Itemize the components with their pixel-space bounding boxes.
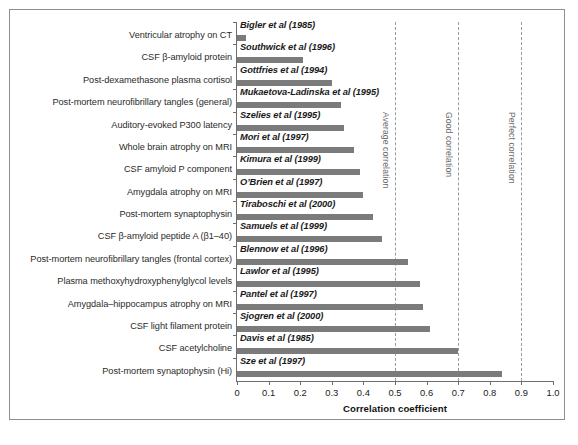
x-axis-tick-label: 0.8 bbox=[483, 387, 496, 398]
bar-citation-label: Tiraboschi et al (2000) bbox=[240, 199, 335, 209]
bar-citation-label: Davis et al (1985) bbox=[240, 333, 314, 343]
x-axis-tick-label: 0.5 bbox=[388, 387, 401, 398]
bar-citation-label: Southwick et al (1996) bbox=[240, 42, 335, 52]
bar bbox=[237, 125, 344, 131]
category-label: Amygdala–hippocampus atrophy on MRI bbox=[68, 299, 232, 309]
category-label: CSF light filament protein bbox=[130, 321, 232, 331]
bar-citation-label: Bigler et al (1985) bbox=[240, 20, 315, 30]
x-axis-tick bbox=[553, 381, 554, 385]
category-label: Plasma methoxyhydroxyphenylglycol levels bbox=[57, 276, 232, 286]
y-axis-tick bbox=[233, 67, 237, 68]
x-axis-tick-label: 0.9 bbox=[515, 387, 528, 398]
category-label: CSF amyloid P component bbox=[124, 164, 232, 174]
x-axis-tick bbox=[427, 381, 428, 385]
bar bbox=[237, 371, 502, 377]
category-label: Ventricular atrophy on CT bbox=[129, 30, 232, 40]
x-axis-title: Correlation coefficient bbox=[237, 403, 553, 414]
y-axis-tick bbox=[233, 22, 237, 23]
x-axis-tick bbox=[521, 381, 522, 385]
category-label: Amygdala atrophy on MRI bbox=[127, 187, 232, 197]
x-axis-tick bbox=[269, 381, 270, 385]
y-axis-tick bbox=[233, 291, 237, 292]
category-label: CSF β-amyloid peptide A (β1–40) bbox=[98, 231, 232, 241]
x-axis-tick-label: 0.3 bbox=[325, 387, 338, 398]
x-axis-tick bbox=[490, 381, 491, 385]
bar bbox=[237, 169, 360, 175]
category-label: Post-mortem neurofibrillary tangles (fro… bbox=[30, 254, 232, 264]
bar bbox=[237, 57, 303, 63]
bar bbox=[237, 102, 341, 108]
bar-citation-label: Mukaetova-Ladinska et al (1995) bbox=[240, 87, 379, 97]
category-label: Post-mortem synaptophysin bbox=[119, 209, 232, 219]
x-axis-tick bbox=[332, 381, 333, 385]
bar-citation-label: Mori et al (1997) bbox=[240, 132, 309, 142]
bar bbox=[237, 236, 382, 242]
x-axis-tick bbox=[363, 381, 364, 385]
y-axis-tick bbox=[233, 89, 237, 90]
bar-citation-label: Sjogren et al (2000) bbox=[240, 311, 323, 321]
plot-area: Bigler et al (1985)Southwick et al (1996… bbox=[237, 22, 553, 380]
x-axis-tick-label: 0.4 bbox=[357, 387, 370, 398]
x-axis-tick-label: 0.2 bbox=[294, 387, 307, 398]
bar-citation-label: Kimura et al (1999) bbox=[240, 154, 321, 164]
bar bbox=[237, 214, 373, 220]
x-axis-tick-label: 0.1 bbox=[262, 387, 275, 398]
y-axis-tick bbox=[233, 156, 237, 157]
bar-citation-label: Samuels et al (1999) bbox=[240, 221, 327, 231]
y-axis-tick bbox=[233, 313, 237, 314]
bar-citation-label: Gottfries et al (1994) bbox=[240, 65, 327, 75]
bar-citation-label: Lawlor et al (1995) bbox=[240, 266, 319, 276]
bar-citation-label: Blennow et al (1996) bbox=[240, 244, 327, 254]
bar bbox=[237, 304, 423, 310]
x-axis-tick bbox=[458, 381, 459, 385]
category-label: Post-mortem neurofibrillary tangles (gen… bbox=[52, 97, 232, 107]
y-axis-tick bbox=[233, 223, 237, 224]
bar bbox=[237, 35, 246, 41]
x-axis-tick bbox=[300, 381, 301, 385]
chart-figure: Average correlationGood correlationPerfe… bbox=[0, 0, 578, 445]
x-axis-tick-label: 1.0 bbox=[546, 387, 559, 398]
x-axis-tick-label: 0.6 bbox=[420, 387, 433, 398]
bar-citation-label: Szelies et al (1995) bbox=[240, 110, 320, 120]
bar-citation-label: Sze et al (1997) bbox=[240, 356, 305, 366]
bar bbox=[237, 259, 408, 265]
category-label: CSF β-amyloid protein bbox=[141, 52, 232, 62]
y-axis-tick bbox=[233, 335, 237, 336]
bar bbox=[237, 326, 430, 332]
x-axis-tick-label: 0 bbox=[234, 387, 239, 398]
category-label: Auditory-evoked P300 latency bbox=[111, 120, 232, 130]
y-axis-tick bbox=[233, 246, 237, 247]
category-label: Post-dexamethasone plasma cortisol bbox=[83, 75, 232, 85]
y-axis-tick bbox=[233, 201, 237, 202]
y-axis-tick bbox=[233, 134, 237, 135]
x-axis-tick bbox=[395, 381, 396, 385]
bar bbox=[237, 80, 332, 86]
bar bbox=[237, 147, 354, 153]
y-axis-tick bbox=[233, 44, 237, 45]
bar-citation-label: Pantel et al (1997) bbox=[240, 289, 317, 299]
bar-citation-label: O’Brien et al (1997) bbox=[240, 177, 322, 187]
y-axis-tick bbox=[233, 179, 237, 180]
y-axis-tick bbox=[233, 112, 237, 113]
bar bbox=[237, 348, 458, 354]
category-label: CSF acetylcholine bbox=[159, 343, 232, 353]
category-label: Whole brain atrophy on MRI bbox=[119, 142, 232, 152]
bar bbox=[237, 192, 363, 198]
bar bbox=[237, 281, 420, 287]
y-axis-tick bbox=[233, 358, 237, 359]
chart-bar-row: Sze et al (1997) bbox=[237, 358, 553, 384]
category-label: Post-mortem synaptophysin (Hi) bbox=[102, 366, 232, 376]
y-axis-tick bbox=[233, 268, 237, 269]
x-axis-tick bbox=[237, 381, 238, 385]
x-axis-tick-label: 0.7 bbox=[452, 387, 465, 398]
